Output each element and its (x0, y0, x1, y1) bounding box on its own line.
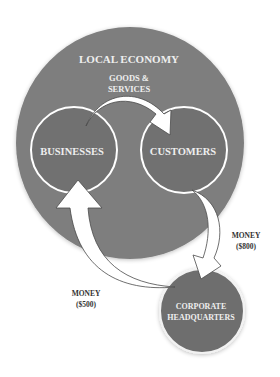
goods-label-line2: SERVICES (108, 84, 150, 94)
businesses-label: BUSINESSES (40, 146, 104, 157)
goods-label-line1: GOODS & (109, 73, 149, 83)
headquarters-circle (160, 269, 244, 353)
money-800-label-line2: ($800) (236, 242, 256, 251)
local-economy-label: LOCAL ECONOMY (79, 53, 179, 65)
hq-label-line2: HEADQUARTERS (167, 313, 235, 322)
hq-label-line1: CORPORATE (176, 302, 227, 311)
customers-label: CUSTOMERS (150, 146, 216, 157)
local-economy-diagram: LOCAL ECONOMY GOODS & SERVICES BUSINESSE… (0, 0, 280, 377)
money-500-label-line1: MONEY (72, 289, 101, 298)
money-800-label-line1: MONEY (232, 231, 261, 240)
money-500-label-line2: ($500) (76, 300, 96, 309)
